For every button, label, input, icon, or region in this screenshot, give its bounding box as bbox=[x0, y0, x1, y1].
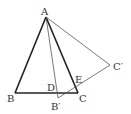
geometry-diagram: A B C B′ C′ D E bbox=[0, 0, 131, 114]
label-C: C bbox=[79, 93, 87, 104]
label-C-prime: C′ bbox=[113, 61, 124, 72]
label-D: D bbox=[47, 82, 55, 93]
label-B-prime: B′ bbox=[51, 101, 61, 112]
segment-AB bbox=[15, 17, 46, 93]
label-E: E bbox=[75, 74, 82, 85]
label-A: A bbox=[40, 6, 49, 17]
label-B: B bbox=[7, 93, 14, 104]
